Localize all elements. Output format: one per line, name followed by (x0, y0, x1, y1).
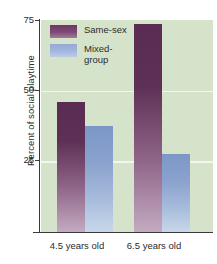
legend-label-mixed-group-line1: Mixed- (84, 43, 113, 54)
plot-area: Same-sex Mixed- group (41, 20, 213, 232)
bar-mixed-group-4-5-years (85, 126, 113, 232)
x-tick-label-6-5-years: 6.5 years old (118, 240, 190, 251)
bar-same-sex-4-5-years (57, 102, 85, 232)
y-tick-label-50: 50 (8, 84, 34, 95)
x-axis-line (33, 232, 213, 233)
y-axis-tick-labels: 75 50 25 (2, 0, 34, 264)
bar-mixed-group-6-5-years (162, 154, 190, 232)
legend-swatch-mixed-group-icon (50, 44, 77, 57)
x-tick-label-4-5-years: 4.5 years old (41, 240, 113, 251)
y-tick-label-25: 25 (8, 154, 34, 165)
legend-item-mixed-group: Mixed- group (50, 43, 170, 65)
legend-item-same-sex: Same-sex (50, 24, 170, 38)
y-tick-label-75: 75 (8, 14, 34, 25)
gridline-50 (41, 91, 213, 92)
legend-swatch-same-sex-icon (50, 25, 77, 38)
bar-chart-figure: Percent of social playtime 75 50 25 Same… (0, 0, 217, 264)
legend-label-mixed-group: Mixed- group (84, 43, 113, 65)
legend: Same-sex Mixed- group (50, 24, 170, 70)
legend-label-same-sex: Same-sex (84, 24, 127, 35)
legend-label-mixed-group-line2: group (84, 54, 108, 65)
legend-label-same-sex-line1: Same-sex (84, 24, 127, 35)
